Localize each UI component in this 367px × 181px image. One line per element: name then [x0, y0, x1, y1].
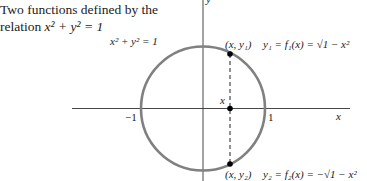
- upper-point: [227, 51, 233, 57]
- point-x-label: x: [219, 94, 225, 106]
- y-axis-label: y: [205, 0, 211, 5]
- circle-functions-diagram: x² + y² = 1 y x −1 1 x (x, y₁) y₁ = f₁(x…: [0, 0, 367, 181]
- upper-function-label: y₁ = f₁(x) = √1 − x²: [262, 38, 350, 51]
- tick-neg-one: −1: [125, 111, 137, 123]
- tick-pos-one: 1: [268, 111, 274, 123]
- lower-point: [227, 161, 233, 167]
- x-axis-label: x: [335, 110, 341, 122]
- circle-equation-label: x² + y² = 1: [109, 35, 158, 47]
- x-point: [227, 106, 233, 112]
- upper-point-label: (x, y₁): [225, 38, 252, 51]
- lower-point-label: (x, y₂): [225, 168, 252, 181]
- lower-function-label: y₂ = f₂(x) = −√1 − x²: [262, 168, 357, 181]
